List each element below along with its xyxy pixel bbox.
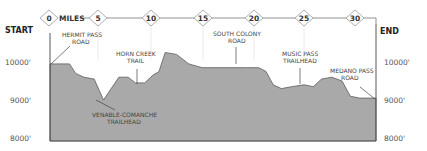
mile-marker-30: 30 bbox=[346, 10, 364, 26]
mile-marker-25: 25 bbox=[295, 10, 313, 26]
svg-text:9000': 9000' bbox=[384, 96, 405, 105]
svg-text:0: 0 bbox=[46, 14, 51, 23]
svg-text:TRAIL: TRAIL bbox=[126, 57, 144, 64]
svg-text:ROAD: ROAD bbox=[72, 38, 90, 45]
svg-text:8000': 8000' bbox=[384, 134, 405, 143]
svg-text:MEDANO PASS: MEDANO PASS bbox=[330, 67, 374, 74]
mile-marker-15: 15 bbox=[194, 10, 212, 26]
svg-text:TRAILHEAD: TRAILHEAD bbox=[106, 118, 141, 125]
mile-marker-0: 0 bbox=[40, 10, 58, 26]
svg-text:HORN CREEK: HORN CREEK bbox=[116, 50, 157, 57]
mile-marker-10: 10 bbox=[142, 10, 160, 26]
svg-text:8000': 8000' bbox=[10, 134, 31, 143]
mile-marker-20: 20 bbox=[245, 10, 263, 26]
svg-text:MUSIC PASS: MUSIC PASS bbox=[282, 50, 318, 57]
elevation-area bbox=[50, 53, 376, 142]
svg-text:ROAD: ROAD bbox=[341, 74, 359, 81]
svg-text:10000': 10000' bbox=[384, 58, 410, 67]
svg-text:TRAILHEAD: TRAILHEAD bbox=[282, 57, 317, 64]
svg-text:5: 5 bbox=[95, 14, 100, 23]
svg-text:VENABLE-COMANCHE: VENABLE-COMANCHE bbox=[92, 111, 157, 118]
end-label: END bbox=[380, 27, 399, 36]
annotation-music-pass-trailhead: MUSIC PASS TRAILHEAD bbox=[282, 50, 318, 84]
svg-text:10000': 10000' bbox=[5, 58, 31, 67]
svg-text:10: 10 bbox=[146, 14, 156, 23]
svg-text:ROAD: ROAD bbox=[228, 37, 246, 44]
miles-axis bbox=[80, 18, 376, 24]
y-axis-right: 10000' 9000' 8000' bbox=[384, 58, 410, 143]
svg-text:9000': 9000' bbox=[10, 96, 31, 105]
svg-text:15: 15 bbox=[198, 14, 208, 23]
svg-text:SOUTH COLONY: SOUTH COLONY bbox=[213, 30, 261, 37]
svg-text:30: 30 bbox=[350, 14, 360, 23]
svg-text:20: 20 bbox=[249, 14, 259, 23]
annotation-hermit-pass-road: HERMIT PASS ROAD bbox=[51, 31, 102, 64]
svg-text:HERMIT PASS: HERMIT PASS bbox=[62, 31, 102, 38]
svg-text:25: 25 bbox=[299, 14, 309, 23]
miles-label: MILES bbox=[59, 14, 85, 23]
mile-marker-5: 5 bbox=[89, 10, 107, 26]
start-label: START bbox=[5, 26, 34, 35]
y-axis-left: 10000' 9000' 8000' bbox=[5, 58, 31, 143]
elevation-profile-chart: 051015202530 MILES START END 10000' 9000… bbox=[0, 0, 427, 151]
